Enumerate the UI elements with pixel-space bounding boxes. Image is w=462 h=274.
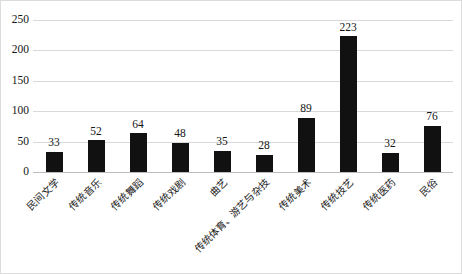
bar-series: 335264483528892233276 [33,20,453,172]
bar[interactable] [340,36,357,172]
bar-value-label: 33 [33,137,75,149]
x-axis-label-slot: 民间文学 [33,173,75,273]
x-axis-label-slot: 传统技艺 [327,173,369,273]
bar-group: 52 [75,20,117,172]
bar-group: 64 [117,20,159,172]
y-axis-tick-label: 50 [0,136,29,148]
bar-value-label: 52 [75,126,117,138]
x-axis-label-slot: 传统戏剧 [159,173,201,273]
bar-value-label: 89 [285,103,327,115]
x-axis-label-slot: 传统体育、游艺与杂技 [243,173,285,273]
y-axis-tick-label: 250 [0,14,29,26]
bar-value-label: 35 [201,136,243,148]
bar-group: 223 [327,20,369,172]
bar-group: 48 [159,20,201,172]
y-axis-tick-label: 0 [0,166,29,178]
bar[interactable] [424,126,441,172]
bar-value-label: 64 [117,119,159,131]
x-axis-label-slot: 传统医药 [369,173,411,273]
bar[interactable] [88,140,105,172]
bar-value-label: 32 [369,138,411,150]
bar-group: 89 [285,20,327,172]
bar[interactable] [298,118,315,172]
y-axis-tick-label: 200 [0,45,29,57]
x-axis-tick-label: 民俗 [418,177,440,199]
bar[interactable] [46,152,63,172]
bar-group: 33 [33,20,75,172]
x-axis-category-labels: 民间文学传统音乐传统舞蹈传统戏剧曲艺传统体育、游艺与杂技传统美术传统技艺传统医药… [33,173,453,273]
bar-group: 28 [243,20,285,172]
x-axis-tick-label: 民间文学 [26,177,62,213]
x-axis-label-slot: 传统舞蹈 [117,173,159,273]
bar-group: 76 [411,20,453,172]
bar[interactable] [256,155,273,172]
bar[interactable] [130,133,147,172]
bar[interactable] [382,153,399,172]
bar-chart: 050100150200250 335264483528892233276 民间… [0,0,462,274]
plot-area: 050100150200250 335264483528892233276 [33,20,453,172]
bar-value-label: 76 [411,111,453,123]
bar-value-label: 223 [327,22,369,34]
bar-value-label: 28 [243,140,285,152]
bar-group: 35 [201,20,243,172]
x-axis-label-slot: 传统美术 [285,173,327,273]
x-axis-label-slot: 民俗 [411,173,453,273]
x-axis-label-slot: 传统音乐 [75,173,117,273]
bar[interactable] [172,143,189,172]
bar-value-label: 48 [159,128,201,140]
x-axis-tick-label: 曲艺 [208,177,230,199]
bar[interactable] [214,151,231,172]
bar-group: 32 [369,20,411,172]
y-axis-tick-label: 150 [0,75,29,87]
y-axis-tick-label: 100 [0,105,29,117]
